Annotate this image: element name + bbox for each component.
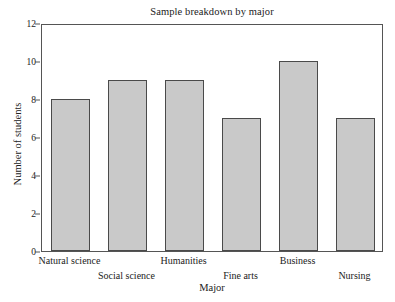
bar-chart-figure: Sample breakdown by major 024681012 Numb… [0,0,395,302]
y-axis-tick [35,138,40,139]
chart-title: Sample breakdown by major [41,5,383,18]
plot-area [42,25,382,251]
y-axis-tick [35,24,40,25]
plot-frame [41,24,383,252]
x-axis-tick-label: Fine arts [223,270,258,282]
x-axis-title: Major [41,282,383,294]
x-axis-tick-label: Social science [98,270,155,282]
x-axis-tick-label: Humanities [160,255,206,267]
y-axis-tick [35,62,40,63]
y-axis-tick [35,214,40,215]
x-axis-tick-label: Natural science [39,255,101,267]
y-axis-title: Number of students [12,69,24,219]
y-axis-tick [35,176,40,177]
x-axis-tick-label: Nursing [338,270,370,282]
y-axis-tick [35,100,40,101]
bar [222,118,262,251]
bar [336,118,376,251]
x-axis-tick-label: Business [280,255,316,267]
bar [279,61,319,251]
bar [108,80,148,251]
bar [165,80,205,251]
bar [51,99,91,251]
